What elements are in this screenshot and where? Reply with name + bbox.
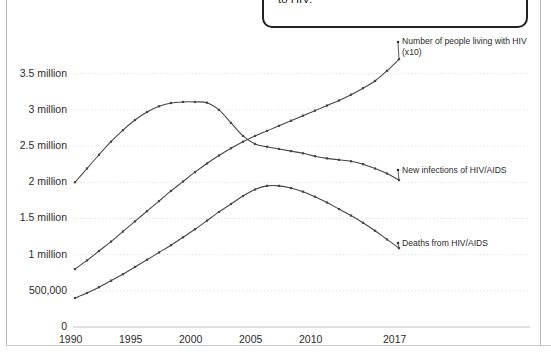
series-data-point <box>86 259 88 261</box>
series-data-point <box>110 280 112 282</box>
series-data-point <box>182 180 184 182</box>
series-label-line-2: (x10) <box>402 47 527 58</box>
y-axis-tick-label: 500,000 <box>0 284 67 296</box>
series-data-point <box>350 160 352 162</box>
chart-series-2 <box>74 101 400 184</box>
series-data-point <box>86 167 88 169</box>
series-data-point <box>326 157 328 159</box>
x-axis-tick-label: 2010 <box>299 333 322 345</box>
series-data-point <box>158 251 160 253</box>
series-label-line-1: New infections of HIV/AIDS <box>402 165 507 176</box>
series-label-1: Number of people living with HIV(x10) <box>402 36 527 57</box>
series-data-point <box>74 181 76 183</box>
series-data-point <box>194 101 196 103</box>
series-data-point <box>314 196 316 198</box>
series-data-point <box>194 171 196 173</box>
series-data-point <box>350 214 352 216</box>
series-data-point <box>110 241 112 243</box>
series-data-point <box>122 129 124 131</box>
series-data-point <box>98 250 100 252</box>
series-data-point <box>326 201 328 203</box>
series-line <box>75 102 399 182</box>
series-data-point <box>194 228 196 230</box>
series-data-point <box>134 266 136 268</box>
chart-series-3 <box>74 185 400 299</box>
series-data-point <box>362 87 364 89</box>
series-data-point <box>302 152 304 154</box>
series-label-3: Deaths from HIV/AIDS <box>402 238 488 249</box>
y-axis-tick-label: 3.5 million <box>0 67 67 79</box>
series-data-point <box>278 125 280 127</box>
series-data-point <box>230 122 232 124</box>
series-data-point <box>218 154 220 156</box>
series-data-point <box>134 220 136 222</box>
series-data-point <box>386 70 388 72</box>
series-data-point <box>374 80 376 82</box>
series-leader-arrow-1 <box>397 41 400 44</box>
series-data-point <box>302 115 304 117</box>
series-data-point <box>230 203 232 205</box>
series-data-point <box>74 297 76 299</box>
series-data-point <box>182 101 184 103</box>
series-data-point <box>374 167 376 169</box>
series-data-point <box>314 155 316 157</box>
series-line <box>75 59 399 269</box>
series-label-line-1: Number of people living with HIV <box>402 36 527 47</box>
series-leader-arrow-2 <box>397 169 400 172</box>
series-data-point <box>206 162 208 164</box>
series-data-point <box>170 102 172 104</box>
series-data-point <box>170 190 172 192</box>
series-data-point <box>98 154 100 156</box>
series-leader-arrow-3 <box>397 242 400 245</box>
series-line <box>75 186 399 299</box>
series-data-point <box>266 185 268 187</box>
series-data-point <box>146 111 148 113</box>
x-axis-tick-label: 2017 <box>383 333 406 345</box>
series-data-point <box>146 210 148 212</box>
y-axis-tick-label: 3 million <box>0 103 67 115</box>
y-axis-tick-label: 2.5 million <box>0 139 67 151</box>
x-axis-tick-label: 1995 <box>119 333 142 345</box>
series-data-point <box>122 230 124 232</box>
series-data-point <box>146 259 148 261</box>
series-data-point <box>86 292 88 294</box>
y-axis-tick-label: 2 million <box>0 175 67 187</box>
series-data-point <box>74 268 76 270</box>
series-data-point <box>242 135 244 137</box>
y-axis-tick-label: 1 million <box>0 248 67 260</box>
series-label-2: New infections of HIV/AIDS <box>402 165 507 176</box>
series-data-point <box>326 104 328 106</box>
series-data-point <box>278 148 280 150</box>
series-data-point <box>122 273 124 275</box>
series-data-point <box>218 109 220 111</box>
x-axis-tick-label: 2000 <box>179 333 202 345</box>
y-axis-tick-label: 0 <box>0 320 67 332</box>
series-data-point <box>314 110 316 112</box>
series-data-point <box>254 143 256 145</box>
series-label-line-1: Deaths from HIV/AIDS <box>402 238 488 249</box>
series-data-point <box>134 119 136 121</box>
series-data-point <box>170 244 172 246</box>
x-axis-tick-label: 2005 <box>239 333 262 345</box>
series-data-point <box>242 195 244 197</box>
series-leader-line-1 <box>398 42 399 59</box>
series-data-point <box>206 102 208 104</box>
series-data-point <box>266 146 268 148</box>
series-data-point <box>338 99 340 101</box>
series-data-point <box>254 135 256 137</box>
series-data-point <box>254 188 256 190</box>
series-data-point <box>218 211 220 213</box>
series-data-point <box>290 150 292 152</box>
series-data-point <box>158 200 160 202</box>
series-data-point <box>290 187 292 189</box>
series-data-point <box>98 286 100 288</box>
y-axis-tick-label: 1.5 million <box>0 211 67 223</box>
series-data-point <box>350 94 352 96</box>
series-leader-line-2 <box>398 170 399 180</box>
series-data-point <box>110 141 112 143</box>
series-data-point <box>278 185 280 187</box>
series-data-point <box>362 163 364 165</box>
series-data-point <box>230 147 232 149</box>
series-data-point <box>290 120 292 122</box>
series-data-point <box>206 220 208 222</box>
